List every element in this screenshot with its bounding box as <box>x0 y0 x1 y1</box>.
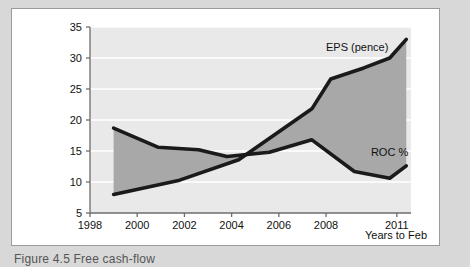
x-axis-title: Years to Feb <box>365 229 427 241</box>
series-label-roc: ROC % <box>371 146 408 158</box>
y-axis-tick-15: 15 <box>42 145 82 157</box>
figure-page: 5101520253035 19982000200220042006200820… <box>0 0 470 267</box>
figure-caption: Figure 4.5 Free cash-flow <box>14 252 155 266</box>
x-axis-tick-2008: 2008 <box>296 219 356 231</box>
series-label-eps-pence: EPS (pence) <box>326 41 388 53</box>
chart-area: 5101520253035 19982000200220042006200820… <box>12 9 441 247</box>
y-axis-tick-5: 5 <box>42 207 82 219</box>
y-axis-tick-30: 30 <box>42 52 82 64</box>
series-band-fill <box>114 39 407 194</box>
y-axis-tick-25: 25 <box>42 83 82 95</box>
figure-card: 5101520253035 19982000200220042006200820… <box>11 8 440 246</box>
y-axis-tick-10: 10 <box>42 176 82 188</box>
y-axis-tick-35: 35 <box>42 21 82 33</box>
y-axis-tick-20: 20 <box>42 114 82 126</box>
